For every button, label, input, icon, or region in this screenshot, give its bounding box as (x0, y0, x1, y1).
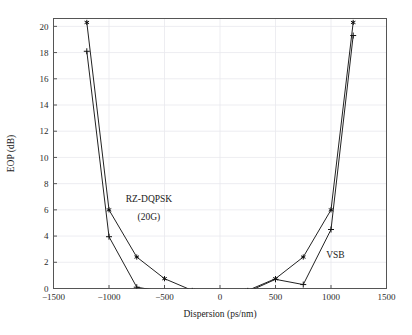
y-tick-label: 16 (40, 74, 50, 84)
y-tick-label: 8 (44, 179, 49, 189)
x-tick-label: 1500 (378, 292, 397, 302)
y-tick-label: 12 (40, 126, 49, 136)
y-tick-label: 20 (40, 22, 50, 32)
x-tick-label: −500 (155, 292, 174, 302)
y-tick-label: 18 (40, 48, 50, 58)
y-tick-label: 4 (44, 231, 49, 241)
x-tick-label: −1000 (97, 292, 121, 302)
x-tick-label: 500 (269, 292, 283, 302)
chart-annotation: RZ-DQPSK (126, 194, 173, 204)
eop-vs-dispersion-chart: −1500−1000−500050010001500 0246810121416… (0, 0, 412, 335)
y-tick-label: 2 (44, 257, 49, 267)
x-axis-title: Dispersion (ps/nm) (183, 309, 256, 320)
y-tick-label: 14 (40, 100, 50, 110)
figure-container: −1500−1000−500050010001500 0246810121416… (0, 0, 412, 335)
y-tick-label: 10 (40, 153, 50, 163)
chart-annotation: VSB (326, 250, 344, 260)
x-tick-label: 1000 (322, 292, 341, 302)
chart-annotation: (20G) (138, 212, 161, 223)
y-tick-label: 6 (44, 205, 49, 215)
y-axis-title: EOP (dB) (6, 135, 17, 172)
x-tick-label: 0 (218, 292, 223, 302)
y-tick-label: 0 (44, 284, 49, 294)
